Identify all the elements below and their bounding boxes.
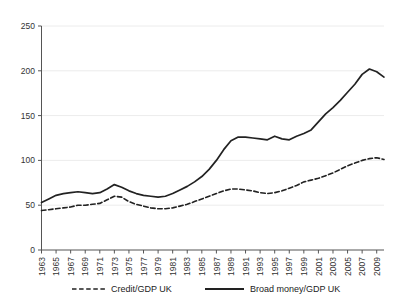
x-tick-label: 1975 [124,257,134,276]
y-tick-label: 200 [21,66,35,76]
x-tick-label: 1969 [80,257,90,276]
y-tick-label: 100 [21,155,35,165]
x-tick-label: 2001 [314,257,324,276]
x-tick-label: 1981 [168,257,178,276]
x-tick-label: 2009 [372,257,382,276]
x-tick-label: 2005 [343,257,353,276]
x-tick-label: 1971 [95,257,105,276]
x-tick-label: 1967 [66,257,76,276]
y-tick-label: 0 [30,245,35,255]
y-tick-label: 250 [21,21,35,31]
x-tick-label: 1993 [255,257,265,276]
x-tick-label: 2003 [328,257,338,276]
x-tick-label: 1987 [212,257,222,276]
x-tick-label: 1985 [197,257,207,276]
legend-label-1: Broad money/GDP UK [250,284,340,294]
x-tick-label: 1997 [284,257,294,276]
legend-label-0: Credit/GDP UK [111,284,172,294]
x-tick-label: 1983 [182,257,192,276]
x-axis: 1963196519671969197119731975197719791981… [37,250,384,276]
y-tick-label: 150 [21,111,35,121]
x-tick-label: 1999 [299,257,309,276]
chart-figure: 050100150200250 196319651967196919711973… [0,0,393,308]
data-series [42,69,385,211]
x-tick-label: 1965 [51,257,61,276]
x-tick-label: 1963 [37,257,47,276]
y-axis: 050100150200250 [21,21,42,255]
series-line-1 [42,69,385,203]
x-tick-label: 1973 [110,257,120,276]
chart-legend: Credit/GDP UKBroad money/GDP UK [72,284,340,294]
x-tick-label: 1991 [241,257,251,276]
gridlines [42,26,385,205]
x-tick-label: 1977 [139,257,149,276]
x-tick-label: 2007 [357,257,367,276]
line-chart: 050100150200250 196319651967196919711973… [0,0,393,308]
x-tick-label: 1989 [226,257,236,276]
x-tick-label: 1979 [153,257,163,276]
y-tick-label: 50 [26,200,36,210]
x-tick-label: 1995 [270,257,280,276]
